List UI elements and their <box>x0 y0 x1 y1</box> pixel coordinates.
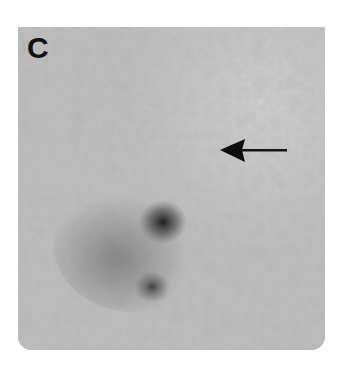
micrograph-panel: C <box>18 27 325 350</box>
arrow-left-icon <box>220 139 290 163</box>
noise-texture <box>18 27 325 350</box>
panel-label: C <box>27 33 49 63</box>
